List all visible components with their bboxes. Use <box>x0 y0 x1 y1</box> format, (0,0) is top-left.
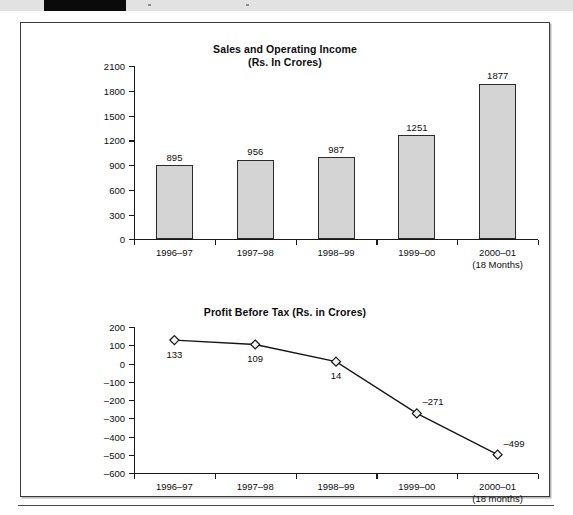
bar-y-tick <box>129 66 134 67</box>
bar-y-tick <box>129 215 134 216</box>
line-x-label: 1999–00 <box>382 481 452 492</box>
bar-y-tick-label: 1500 <box>79 111 125 122</box>
bar-value-label: 956 <box>225 146 285 157</box>
bar-y-tick-label: 900 <box>79 160 125 171</box>
bar-x-label: 2000–01 <box>463 247 533 258</box>
bar-x-tick <box>376 240 377 245</box>
bar-y-tick-label: 1200 <box>79 135 125 146</box>
bar-y-tick <box>129 140 134 141</box>
bar-y-tick <box>129 116 134 117</box>
bar-1998-99[interactable] <box>318 157 355 239</box>
bar-chart-y-axis <box>134 66 135 240</box>
bar-value-label: 895 <box>145 152 205 163</box>
bar-x-tick <box>457 240 458 245</box>
scan-speck-icon <box>246 4 249 6</box>
bar-y-tick-label: 600 <box>79 185 125 196</box>
bar-value-label: 1251 <box>387 122 447 133</box>
bar-chart-title-line1: Sales and Operating Income <box>21 43 549 56</box>
figure-frame: Sales and Operating Income (Rs. In Crore… <box>20 22 550 497</box>
bar-x-tick <box>538 240 539 245</box>
bar-y-tick-label: 2100 <box>79 61 125 72</box>
line-x-label: 1997–98 <box>220 481 290 492</box>
line-x-label-note: (18 months) <box>463 493 533 504</box>
bar-y-tick-label: 300 <box>79 210 125 221</box>
bar-value-label: 987 <box>306 144 366 155</box>
bar-x-label: 1996–97 <box>139 247 209 258</box>
data-point-marker[interactable] <box>412 409 421 418</box>
bar-x-label: 1999–00 <box>382 247 452 258</box>
bar-y-tick <box>129 91 134 92</box>
bar-x-label: 1997–98 <box>220 247 290 258</box>
bar-x-label: 1998–99 <box>301 247 371 258</box>
data-point-marker[interactable] <box>332 357 341 366</box>
bar-y-tick <box>129 165 134 166</box>
bar-chart-x-axis <box>134 239 538 240</box>
page-bottom-rule <box>18 505 554 506</box>
line-x-label: 1996–97 <box>139 481 209 492</box>
line-value-label: 14 <box>306 370 366 381</box>
bar-1996-97[interactable] <box>156 165 193 239</box>
bar-x-label-note: (18 Months) <box>463 259 533 270</box>
bar-y-tick <box>129 190 134 191</box>
bar-value-label: 1877 <box>468 70 528 81</box>
bar-2000-01[interactable] <box>479 84 516 240</box>
line-value-label: 133 <box>144 349 204 360</box>
data-point-marker[interactable] <box>251 340 260 349</box>
data-point-marker[interactable] <box>493 450 502 459</box>
bar-y-tick-label: 1800 <box>79 86 125 97</box>
bar-x-tick <box>296 240 297 245</box>
bar-x-tick <box>134 240 135 245</box>
line-series-plot <box>21 273 549 498</box>
line-value-label: 109 <box>225 353 285 364</box>
scan-speck-icon <box>148 4 151 6</box>
line-value-label: –499 <box>484 438 544 449</box>
scan-redaction-block <box>44 0 126 11</box>
bar-x-tick <box>215 240 216 245</box>
line-x-label: 2000–01 <box>463 481 533 492</box>
bar-1999-00[interactable] <box>398 135 435 239</box>
bar-chart-sales-operating-income: Sales and Operating Income (Rs. In Crore… <box>21 23 549 273</box>
bar-1997-98[interactable] <box>237 160 274 239</box>
data-point-marker[interactable] <box>170 336 179 345</box>
line-value-label: –271 <box>403 396 463 407</box>
bar-y-tick-label: 0 <box>79 234 125 245</box>
line-x-label: 1998–99 <box>301 481 371 492</box>
line-chart-profit-before-tax: Profit Before Tax (Rs. in Crores) 200 10… <box>21 273 549 498</box>
